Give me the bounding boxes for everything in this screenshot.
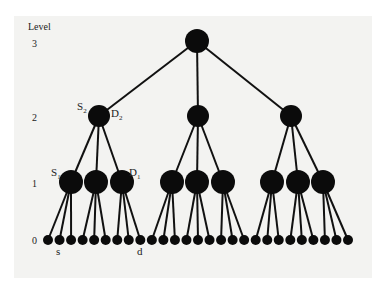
level-2-node	[280, 105, 302, 127]
hierarchical-tree-diagram: Level 3210 S2D2S1D1sd	[0, 0, 378, 283]
level-2-node	[88, 105, 110, 127]
leaf-node	[320, 235, 330, 245]
leaf-node	[251, 235, 261, 245]
leaf-node	[181, 235, 191, 245]
level-1-node	[59, 170, 83, 194]
root-node	[185, 29, 209, 53]
level-1-node	[260, 170, 284, 194]
leaf-node	[274, 235, 284, 245]
level-1-node	[160, 170, 184, 194]
leaf-node	[55, 235, 65, 245]
leaf-node	[158, 235, 168, 245]
node-label: s	[56, 245, 60, 257]
level-1-node	[185, 170, 209, 194]
leaf-node	[308, 235, 318, 245]
leaf-node	[216, 235, 226, 245]
leaf-node	[297, 235, 307, 245]
leaf-node	[66, 235, 76, 245]
leaf-node	[43, 235, 53, 245]
leaf-node	[89, 235, 99, 245]
level-axis-title: Level	[28, 21, 51, 32]
leaf-node	[239, 235, 249, 245]
level-label: 0	[32, 235, 37, 246]
level-label: 2	[32, 112, 37, 123]
leaf-node	[112, 235, 122, 245]
leaf-node	[101, 235, 111, 245]
leaf-node	[343, 235, 353, 245]
level-1-node	[211, 170, 235, 194]
leaf-node	[262, 235, 272, 245]
leaf-node	[170, 235, 180, 245]
leaf-node	[205, 235, 215, 245]
level-1-node	[311, 170, 335, 194]
level-1-node	[286, 170, 310, 194]
leaf-node	[147, 235, 157, 245]
leaf-node	[193, 235, 203, 245]
level-label: 3	[32, 38, 37, 49]
leaf-node	[331, 235, 341, 245]
leaf-node	[124, 235, 134, 245]
level-label: 1	[32, 178, 37, 189]
level-2-node	[187, 105, 209, 127]
leaf-node	[78, 235, 88, 245]
leaf-node	[228, 235, 238, 245]
leaf-node	[135, 235, 145, 245]
level-1-node	[84, 170, 108, 194]
node-label: d	[137, 245, 143, 257]
leaf-node	[285, 235, 295, 245]
